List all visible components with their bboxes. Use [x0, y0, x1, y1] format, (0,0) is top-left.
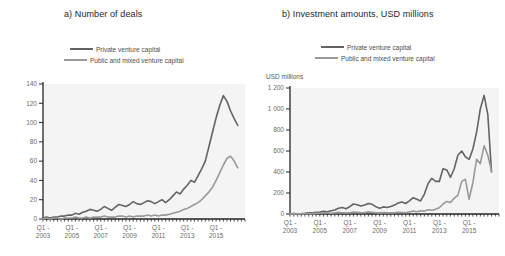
x-axis-tick-label-year: 2015	[462, 227, 477, 234]
x-axis-tick-label-year: 2007	[93, 232, 108, 239]
x-axis-tick-label-quarter: Q1 -	[94, 224, 107, 232]
y-axis-tick-label: 20	[30, 196, 38, 203]
y-axis-tick-label: 80	[30, 138, 38, 145]
x-axis-tick-label-year: 2007	[342, 227, 357, 234]
x-axis-tick-label-year: 2009	[122, 232, 137, 239]
x-axis-tick-label-year: 2005	[313, 227, 328, 234]
x-axis-tick-label-quarter: Q1 -	[343, 219, 356, 227]
x-axis-tick-label-quarter: Q1 -	[152, 224, 165, 232]
x-axis-tick-label-quarter: Q1 -	[37, 224, 50, 232]
y-axis-tick-label: 0	[33, 215, 37, 222]
x-axis-tick-label-quarter: Q1 -	[210, 224, 223, 232]
x-axis-tick-label-quarter: Q1 -	[284, 219, 297, 227]
y-axis-tick-label: 1 200	[268, 84, 285, 91]
plot-background	[43, 84, 245, 219]
x-axis-tick-label-quarter: Q1 -	[181, 224, 194, 232]
x-axis-tick-label-year: 2011	[402, 227, 416, 234]
x-axis-tick-label-quarter: Q1 -	[123, 224, 136, 232]
x-axis-tick-label-year: 2009	[372, 227, 387, 234]
y-axis-tick-label: 600	[273, 147, 284, 154]
x-axis-tick-label-year: 2015	[209, 232, 224, 239]
x-axis-tick-label-quarter: Q1 -	[66, 224, 79, 232]
y-axis-tick-label: 40	[30, 177, 38, 184]
y-axis-tick-label: 100	[26, 119, 37, 126]
y-axis-tick-label: 400	[273, 168, 284, 175]
x-axis-tick-label-quarter: Q1 -	[373, 219, 386, 227]
x-axis-tick-label-year: 2011	[151, 232, 165, 239]
y-axis-tick-label: 1 000	[268, 105, 285, 112]
x-axis-tick-label-year: 2003	[36, 232, 51, 239]
figure-canvas: a) Number of deals Private venture capit…	[0, 0, 505, 256]
y-axis-tick-label: 120	[26, 100, 37, 107]
x-axis-tick-label-quarter: Q1 -	[463, 219, 476, 227]
y-axis-tick-label: 200	[273, 189, 284, 196]
y-axis-tick-label: 60	[30, 157, 38, 164]
x-axis-tick-label-quarter: Q1 -	[433, 219, 446, 227]
chart-number-of-deals: a) Number of deals Private venture capit…	[0, 0, 252, 256]
x-axis-tick-label-year: 2005	[65, 232, 80, 239]
chart-b-plot-area: 02004006008001 0001 200Q1 -2003Q1 -2005Q…	[253, 0, 505, 256]
chart-a-plot-area: 020406080100120140Q1 -2003Q1 -2005Q1 -20…	[0, 0, 252, 256]
x-axis-tick-label-quarter: Q1 -	[314, 219, 327, 227]
x-axis-tick-label-quarter: Q1 -	[403, 219, 416, 227]
y-axis-tick-label: 0	[280, 210, 284, 217]
x-axis-tick-label-year: 2013	[180, 232, 195, 239]
chart-investment-amounts: b) Investment amounts, USD millions Priv…	[253, 0, 505, 256]
x-axis-tick-label-year: 2003	[283, 227, 298, 234]
x-axis-tick-label-year: 2013	[432, 227, 447, 234]
y-axis-tick-label: 800	[273, 126, 284, 133]
y-axis-tick-label: 140	[26, 80, 37, 87]
